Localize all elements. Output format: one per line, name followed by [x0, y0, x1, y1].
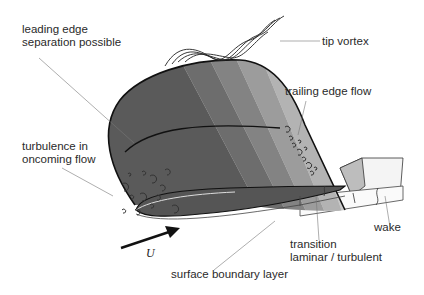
- label-transition-line1: transition: [290, 238, 382, 251]
- label-turbulence-line2: oncoming flow: [22, 153, 96, 166]
- label-trailing-edge-flow: trailing edge flow: [285, 85, 371, 98]
- velocity-arrow: [121, 226, 180, 248]
- label-surface-boundary-layer: surface boundary layer: [171, 268, 288, 281]
- wing-body: [90, 50, 360, 220]
- label-leading-edge-line2: separation possible: [22, 36, 121, 49]
- label-turbulence-line1: turbulence in: [22, 140, 96, 153]
- label-tip-vortex: tip vortex: [322, 35, 369, 48]
- tip-vortex-lines: [165, 16, 284, 66]
- wing-flow-diagram: leading edge separation possible tip vor…: [0, 0, 424, 295]
- label-velocity-u: U: [146, 246, 155, 261]
- label-turbulence-oncoming-flow: turbulence in oncoming flow: [22, 140, 96, 166]
- label-leading-edge-separation: leading edge separation possible: [22, 23, 121, 49]
- label-transition-line2: laminar / turbulent: [290, 251, 382, 264]
- label-leading-edge-line1: leading edge: [22, 23, 121, 36]
- label-transition: transition laminar / turbulent: [290, 238, 382, 264]
- label-wake: wake: [374, 221, 401, 234]
